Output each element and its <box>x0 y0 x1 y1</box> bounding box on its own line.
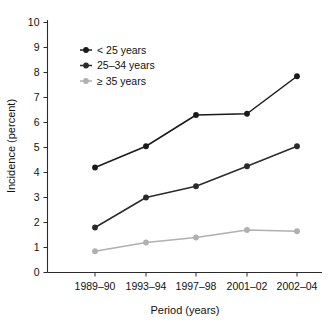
legend-item-2: 25–34 years <box>80 59 155 71</box>
legend-item-3: ≥ 35 years <box>80 75 146 87</box>
y-tick-label: 10 <box>28 16 40 28</box>
y-tick-label: 5 <box>34 141 40 153</box>
data-point <box>244 163 250 169</box>
data-point <box>92 225 98 231</box>
x-axis-tick-labels: 1989–901993–941997–982001–022002–04 <box>75 280 318 292</box>
y-tick-label: 8 <box>34 66 40 78</box>
data-point <box>143 195 149 201</box>
legend-label: 25–34 years <box>97 59 155 71</box>
data-point <box>244 111 250 117</box>
series-line <box>95 76 297 167</box>
y-axis-ticks <box>44 23 48 273</box>
legend-marker-swatch <box>83 47 89 53</box>
y-tick-label: 0 <box>34 266 40 278</box>
data-point <box>244 227 250 233</box>
series-3 <box>92 227 300 254</box>
x-tick-label: 1997–98 <box>176 280 217 292</box>
chart-figure: 012345678910 1989–901993–941997–982001–0… <box>0 0 331 325</box>
data-point <box>92 248 98 254</box>
data-point <box>193 183 199 189</box>
legend-label: < 25 years <box>97 44 146 56</box>
legend-marker-swatch <box>83 63 89 69</box>
data-point <box>143 240 149 246</box>
data-point <box>193 112 199 118</box>
y-tick-label: 9 <box>34 41 40 53</box>
data-point <box>294 143 300 149</box>
data-point <box>143 143 149 149</box>
x-axis-ticks <box>95 273 297 277</box>
legend-label: ≥ 35 years <box>97 75 146 87</box>
y-axis-tick-labels: 012345678910 <box>28 16 40 278</box>
y-tick-label: 6 <box>34 116 40 128</box>
x-tick-label: 2002–04 <box>277 280 318 292</box>
line-chart: 012345678910 1989–901993–941997–982001–0… <box>0 0 331 325</box>
data-point <box>92 165 98 171</box>
legend-item-1: < 25 years <box>80 44 146 56</box>
x-axis-title: Period (years) <box>150 304 219 316</box>
legend-marker-swatch <box>83 78 89 84</box>
x-tick-label: 1993–94 <box>126 280 167 292</box>
series-group <box>92 73 300 254</box>
y-tick-label: 2 <box>34 216 40 228</box>
series-1 <box>92 73 300 170</box>
series-line <box>95 230 297 251</box>
data-point <box>294 228 300 234</box>
y-tick-label: 7 <box>34 91 40 103</box>
data-point <box>294 73 300 79</box>
x-tick-label: 1989–90 <box>75 280 116 292</box>
chart-legend: < 25 years25–34 years≥ 35 years <box>80 44 155 87</box>
y-tick-label: 3 <box>34 191 40 203</box>
data-point <box>193 235 199 241</box>
y-tick-label: 1 <box>34 241 40 253</box>
y-axis-title: Incidence (percent) <box>5 99 17 193</box>
y-tick-label: 4 <box>34 166 40 178</box>
x-tick-label: 2001–02 <box>227 280 268 292</box>
